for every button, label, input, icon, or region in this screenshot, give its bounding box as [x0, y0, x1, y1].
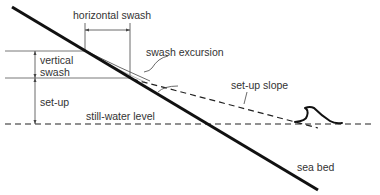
label-set-up-slope: set-up slope	[231, 79, 288, 91]
label-vertical-swash-line1: vertical	[40, 54, 73, 66]
breaking-wave-icon	[295, 107, 342, 123]
arrow-up-icon	[34, 78, 37, 82]
label-swash-excursion: swash excursion	[146, 46, 224, 58]
set-up-slope-leader	[244, 92, 247, 104]
label-set-up: set-up	[40, 96, 69, 108]
arrow-up-icon	[34, 51, 37, 55]
label-sea-bed: sea bed	[297, 161, 334, 173]
swash-excursion-leader	[144, 56, 168, 72]
arrow-down-icon	[34, 74, 37, 78]
label-still-water-level: still-water level	[86, 110, 155, 122]
arrow-left-icon	[85, 29, 89, 32]
set-up-slope-line	[132, 79, 318, 128]
arrow-right-icon	[126, 29, 130, 32]
label-vertical-swash-line2: swash	[40, 66, 70, 78]
label-horizontal-swash: horizontal swash	[73, 9, 151, 21]
